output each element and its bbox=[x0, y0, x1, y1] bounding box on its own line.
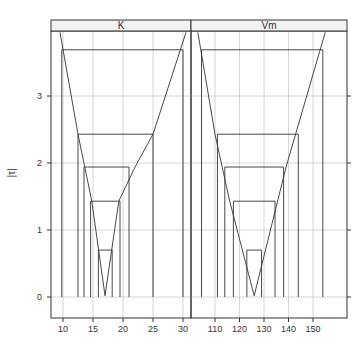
x-tick-label: 30 bbox=[178, 324, 188, 334]
x-tick-label: 130 bbox=[256, 324, 271, 334]
interval-rungs bbox=[62, 50, 183, 250]
gridlines bbox=[191, 31, 347, 318]
strip-k: K bbox=[51, 20, 191, 31]
x-tick-label: 10 bbox=[58, 324, 68, 334]
interval-rungs bbox=[202, 50, 323, 250]
interval-drop-lines bbox=[202, 50, 323, 297]
y-tick-label: 3 bbox=[37, 91, 42, 101]
panel-vm: Vm110120130140150 bbox=[191, 20, 347, 334]
x-axis-vm: 110120130140150 bbox=[208, 318, 321, 334]
strip-vm: Vm bbox=[191, 20, 347, 31]
x-tick-label: 25 bbox=[148, 324, 158, 334]
panel-border bbox=[51, 31, 191, 318]
x-tick-label: 140 bbox=[281, 324, 296, 334]
y-axis-title: |τ| bbox=[6, 168, 17, 177]
x-tick-label: 150 bbox=[305, 324, 320, 334]
strip-label: K bbox=[118, 20, 125, 31]
y-tick-label: 0 bbox=[37, 292, 42, 302]
profile-chart: |τ| K1015202530Vm1101201301401500123 bbox=[0, 0, 353, 350]
y-tick-label: 1 bbox=[37, 225, 42, 235]
x-axis-k: 1015202530 bbox=[58, 318, 188, 334]
x-tick-label: 120 bbox=[232, 324, 247, 334]
y-tick-label: 2 bbox=[37, 158, 42, 168]
strip-label: Vm bbox=[262, 20, 277, 31]
gridlines bbox=[51, 31, 191, 318]
interval-drop-lines bbox=[62, 50, 183, 297]
panel-k: K1015202530 bbox=[51, 20, 191, 334]
x-tick-label: 20 bbox=[118, 324, 128, 334]
x-tick-label: 15 bbox=[88, 324, 98, 334]
panel-border bbox=[191, 31, 347, 318]
x-tick-label: 110 bbox=[208, 324, 222, 334]
y-axis-label: |τ| bbox=[6, 168, 17, 177]
panels: K1015202530Vm1101201301401500123 bbox=[37, 20, 351, 334]
